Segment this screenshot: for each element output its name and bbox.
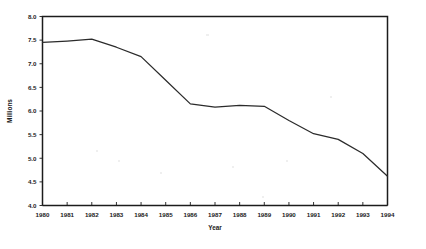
y-tick-label: 5.0 (28, 155, 37, 162)
scan-artifact (206, 34, 209, 36)
x-tick-label: 1990 (282, 211, 296, 218)
x-tick-label: 1994 (381, 211, 395, 218)
scan-artifact (96, 150, 98, 152)
y-axis-title: Millions (6, 99, 13, 123)
x-tick-label: 1983 (110, 211, 124, 218)
line-chart: 4.04.55.05.56.06.57.07.58.01980198119821… (0, 0, 426, 249)
x-tick-label: 1980 (36, 211, 50, 218)
scan-artifact (330, 96, 332, 98)
plot-frame (43, 17, 388, 206)
x-tick-label: 1981 (60, 211, 74, 218)
y-tick-label: 4.0 (28, 202, 37, 209)
x-tick-label: 1991 (307, 211, 321, 218)
x-tick-label: 1992 (331, 211, 345, 218)
scan-artifact (262, 196, 264, 198)
chart-canvas: 4.04.55.05.56.06.57.07.58.01980198119821… (0, 0, 426, 249)
x-tick-label: 1986 (183, 211, 197, 218)
y-tick-label: 6.0 (28, 107, 37, 114)
frame-box (43, 17, 388, 206)
y-axis: 4.04.55.05.56.06.57.07.58.0 (28, 13, 43, 209)
x-tick-label: 1985 (159, 211, 173, 218)
y-tick-label: 7.0 (28, 60, 37, 67)
x-tick-label: 1988 (233, 211, 247, 218)
y-tick-label: 6.5 (28, 84, 37, 91)
x-axis-title: Year (208, 224, 222, 231)
y-tick-label: 8.0 (28, 13, 37, 20)
x-tick-label: 1984 (134, 211, 148, 218)
data-series-line (43, 39, 388, 176)
scan-artifact (118, 160, 120, 162)
x-tick-label: 1989 (257, 211, 271, 218)
x-tick-label: 1993 (356, 211, 370, 218)
x-axis: 1980198119821983198419851986198719881989… (36, 202, 395, 218)
scan-artifact (232, 166, 234, 168)
y-tick-label: 7.5 (28, 36, 37, 43)
x-tick-label: 1982 (85, 211, 99, 218)
scan-artifact (286, 160, 288, 162)
y-tick-label: 4.5 (28, 178, 37, 185)
y-tick-label: 5.5 (28, 131, 37, 138)
scan-artifact (160, 172, 162, 174)
x-tick-label: 1987 (208, 211, 222, 218)
